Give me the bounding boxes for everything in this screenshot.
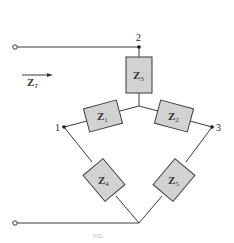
zt-label: ZT: [27, 76, 39, 90]
impedance-z5: Z5: [153, 159, 195, 202]
node-2-label: 2: [136, 32, 141, 43]
impedance-z1: Z1: [83, 100, 122, 132]
bottom-terminal: [13, 221, 17, 225]
z1-wire-outer: [64, 121, 87, 127]
node-1-label: 1: [55, 122, 60, 133]
z4-wire-bottom: [116, 196, 139, 223]
impedance-z4: Z4: [83, 159, 125, 202]
figure-caption: FIG.: [93, 233, 105, 239]
top-terminal: [13, 45, 17, 49]
z5-wire-top: [186, 127, 212, 162]
bridge-circuit-diagram: 2 Z3 Z1 Z2 1 3 Z4: [0, 0, 234, 243]
impedance-z3: Z3: [126, 57, 152, 93]
z2-wire-outer: [190, 121, 212, 127]
z2-wire-inner: [139, 106, 158, 111]
arrowhead-icon: [47, 73, 53, 77]
input-impedance-indicator: ZT: [22, 73, 53, 90]
node-3-label: 3: [216, 122, 221, 133]
z1-wire-inner: [120, 106, 139, 111]
z4-wire-top: [64, 127, 92, 162]
z5-wire-bottom: [139, 196, 162, 223]
impedance-z2: Z2: [154, 100, 193, 132]
